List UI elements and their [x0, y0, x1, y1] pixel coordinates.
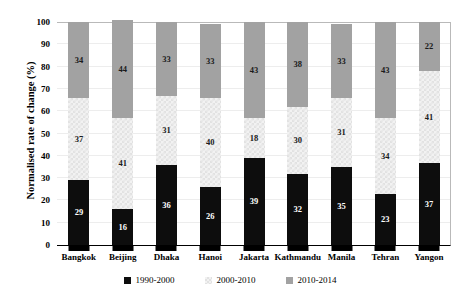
- bar-segment[interactable]: 37: [419, 163, 440, 246]
- x-tick-mark: [200, 246, 221, 251]
- bar-segment[interactable]: 26: [200, 187, 221, 245]
- x-tick-label-yangon: Yangon: [415, 252, 444, 262]
- bar-group[interactable]: 233443: [375, 22, 396, 245]
- bars-layer: 2937341641443631332640333918433230383531…: [57, 22, 451, 245]
- bar-group[interactable]: 353133: [331, 22, 352, 245]
- bar-segment[interactable]: 37: [68, 98, 89, 181]
- bar-value-label: 40: [206, 138, 215, 147]
- x-tick-label-tehran: Tehran: [371, 252, 399, 262]
- x-tick-label-kathmandu: Kathmandu: [275, 252, 322, 262]
- bar-value-label: 34: [381, 152, 390, 161]
- y-tick-label: 50: [41, 129, 50, 139]
- y-tick-label: 100: [37, 17, 51, 27]
- legend-label: 1990-2000: [136, 275, 175, 285]
- bar-segment[interactable]: 33: [200, 24, 221, 98]
- x-tick-label-manila: Manila: [328, 252, 356, 262]
- bar-segment[interactable]: 29: [68, 180, 89, 245]
- bar-value-label: 33: [162, 55, 171, 64]
- bar-value-label: 37: [425, 200, 434, 209]
- bar-value-label: 30: [294, 136, 303, 145]
- chart-legend: 1990-20002000-20102010-2014: [0, 275, 460, 285]
- bar-segment[interactable]: 36: [156, 165, 177, 245]
- bar-value-label: 31: [162, 126, 171, 135]
- x-axis-tick-labels: BangkokBeijingDhakaHanoiJakartaKathmandu…: [57, 246, 451, 268]
- bar-segment[interactable]: 23: [375, 194, 396, 245]
- bar-segment[interactable]: 33: [331, 24, 352, 98]
- legend-item[interactable]: 2010-2014: [286, 275, 337, 285]
- y-tick-label: 30: [41, 173, 50, 183]
- bar-value-label: 33: [337, 57, 346, 66]
- bar-value-label: 23: [381, 215, 390, 224]
- legend-swatch-icon: [286, 277, 293, 284]
- y-tick-label: 60: [41, 106, 50, 116]
- bar-value-label: 16: [118, 223, 127, 232]
- bar-segment[interactable]: 30: [287, 107, 308, 174]
- bar-group[interactable]: 293734: [68, 22, 89, 245]
- bar-segment[interactable]: 16: [112, 209, 133, 245]
- legend-item[interactable]: 2000-2010: [205, 275, 256, 285]
- bar-group[interactable]: 391843: [244, 22, 265, 245]
- bar-segment[interactable]: 38: [287, 22, 308, 107]
- bar-value-label: 37: [75, 135, 84, 144]
- y-tick-label: 90: [41, 39, 50, 49]
- bar-segment[interactable]: 43: [244, 22, 265, 118]
- y-tick-label: 20: [41, 195, 50, 205]
- bar-segment[interactable]: 41: [112, 118, 133, 209]
- y-tick-label: 70: [41, 84, 50, 94]
- bar-value-label: 39: [250, 197, 259, 206]
- bar-segment[interactable]: 34: [68, 22, 89, 98]
- bar-value-label: 36: [162, 201, 171, 210]
- legend-item[interactable]: 1990-2000: [124, 275, 175, 285]
- bar-value-label: 34: [75, 56, 84, 65]
- y-tick-label: 0: [46, 240, 51, 250]
- bar-value-label: 41: [118, 159, 127, 168]
- bar-segment[interactable]: 41: [419, 71, 440, 162]
- bar-value-label: 33: [206, 57, 215, 66]
- bar-segment[interactable]: 31: [156, 96, 177, 165]
- bar-segment[interactable]: 39: [244, 158, 265, 245]
- x-tick-label-jakarta: Jakarta: [239, 252, 269, 262]
- bar-value-label: 29: [75, 208, 84, 217]
- bar-segment[interactable]: 43: [375, 22, 396, 118]
- bar-group[interactable]: 323038: [287, 22, 308, 245]
- y-tick-label: 80: [41, 62, 50, 72]
- x-tick-label-beijing: Beijing: [109, 252, 137, 262]
- bar-group[interactable]: 264033: [200, 22, 221, 245]
- bar-segment[interactable]: 33: [156, 22, 177, 96]
- bar-segment[interactable]: 31: [331, 98, 352, 167]
- bar-group[interactable]: 363133: [156, 22, 177, 245]
- bar-value-label: 41: [425, 113, 434, 122]
- bar-value-label: 43: [381, 66, 390, 75]
- y-axis-tick-labels: 0102030405060708090100: [0, 0, 57, 300]
- legend-label: 2010-2014: [298, 275, 337, 285]
- x-tick-label-hanoi: Hanoi: [198, 252, 222, 262]
- bar-segment[interactable]: 35: [331, 167, 352, 245]
- bar-segment[interactable]: 18: [244, 118, 265, 158]
- bar-segment[interactable]: 34: [375, 118, 396, 194]
- bar-value-label: 44: [118, 65, 127, 74]
- x-tick-mark: [68, 246, 89, 251]
- legend-swatch-icon: [124, 277, 131, 284]
- bar-value-label: 18: [250, 134, 259, 143]
- bar-value-label: 43: [250, 66, 259, 75]
- x-tick-mark: [287, 246, 308, 251]
- bar-segment[interactable]: 22: [419, 22, 440, 71]
- x-tick-label-bangkok: Bangkok: [62, 252, 97, 262]
- bar-segment[interactable]: 40: [200, 98, 221, 187]
- bar-value-label: 35: [337, 202, 346, 211]
- legend-swatch-icon: [205, 277, 212, 284]
- x-tick-mark: [375, 246, 396, 251]
- bar-group[interactable]: 164144: [112, 22, 133, 245]
- bar-value-label: 31: [337, 128, 346, 137]
- x-tick-mark: [419, 246, 440, 251]
- bar-segment[interactable]: 44: [112, 20, 133, 118]
- bar-segment[interactable]: 32: [287, 174, 308, 245]
- x-tick-mark: [112, 246, 133, 251]
- bar-value-label: 32: [294, 205, 303, 214]
- x-tick-mark: [156, 246, 177, 251]
- x-tick-label-dhaka: Dhaka: [154, 252, 180, 262]
- y-tick-label: 40: [41, 151, 50, 161]
- y-tick-label: 10: [41, 218, 50, 228]
- bar-group[interactable]: 374122: [419, 22, 440, 245]
- x-tick-mark: [331, 246, 352, 251]
